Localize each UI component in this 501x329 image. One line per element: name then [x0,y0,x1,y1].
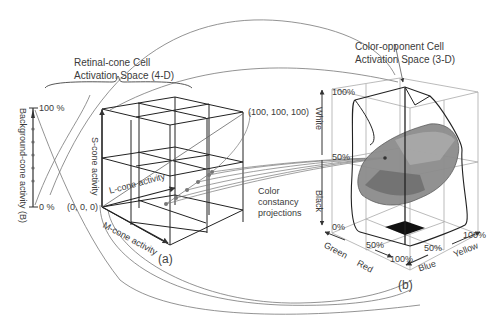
panel-b-title-line2: Activation Space (3-D) [355,53,455,66]
panel-b-title-line1: Color-opponent Cell [355,40,455,53]
by100-label: 100% [463,230,486,241]
v100-label: 100% [332,87,355,98]
projections-label-line3: projections [258,208,302,219]
v0-label: 0% [332,222,345,233]
background-axis-label: Background-cone activity (B) [17,108,28,223]
background-cone-axis [29,108,38,207]
background-max-label: 100 % [39,103,65,114]
cube-a [102,97,243,245]
panel-b-label: (b) [398,280,413,291]
v50-label: 50% [332,152,350,163]
projections-label-line1: Color [258,186,302,197]
panel-b-title: Color-opponent Cell Activation Space (3-… [355,40,455,66]
panel-a-title-line2: Activation Space (4-D) [74,69,174,82]
projections-label-line2: constancy [258,197,302,208]
gr50-label: 50% [366,240,384,251]
black-axis-label: Black [313,190,324,212]
panel-a-label: (a) [158,254,173,265]
s-cone-axis-label: S-cone activity [89,137,100,196]
white-axis-label: White [313,107,324,130]
panel-a-title-line1: Retinal-cone Cell [74,56,174,69]
origin-label: (0, 0, 0) [67,202,98,213]
background-min-label: 0 % [39,202,55,213]
gr100-label: 100% [390,254,413,265]
by50-label: 50% [424,243,442,254]
corner-label: (100, 100, 100) [248,107,309,118]
panel-a-title: Retinal-cone Cell Activation Space (4-D) [74,56,174,82]
projections-label: Color constancy projections [258,186,302,219]
